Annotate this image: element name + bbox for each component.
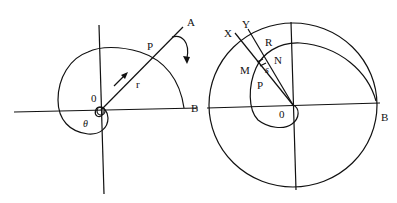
label-s: s <box>265 64 269 75</box>
diagram-canvas: A P B 0 r θ X Y R N M s P 0 B <box>0 0 397 203</box>
label-M: M <box>240 64 250 76</box>
label-B: B <box>381 111 388 123</box>
label-A: A <box>187 16 195 28</box>
label-P: P <box>147 40 153 52</box>
rotation-arrow <box>172 36 188 58</box>
label-theta: θ <box>83 118 88 129</box>
label-X: X <box>224 27 232 39</box>
label-O: 0 <box>91 92 97 104</box>
arrowhead-icon <box>183 56 190 64</box>
radius-line-OA <box>101 27 183 110</box>
left-figure: A P B 0 r θ <box>14 16 198 194</box>
label-O: 0 <box>279 108 285 120</box>
right-figure: X Y R N M s P 0 B <box>207 18 388 190</box>
label-P: P <box>257 79 263 91</box>
label-r: r <box>136 78 140 90</box>
left-spiral-curve <box>58 48 184 135</box>
right-spiral-curve <box>250 43 376 128</box>
label-N: N <box>274 54 282 66</box>
label-Y: Y <box>242 18 250 30</box>
label-R: R <box>265 36 273 48</box>
label-B: B <box>191 102 198 114</box>
